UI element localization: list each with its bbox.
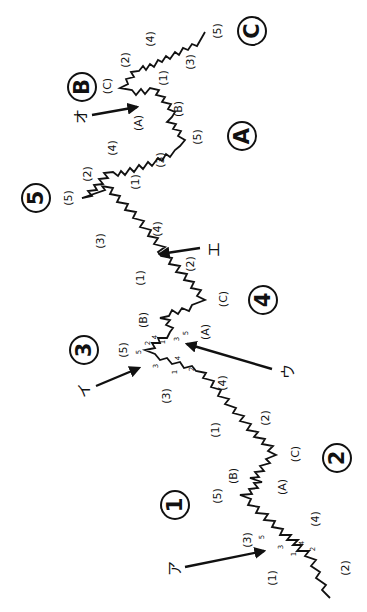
elliott-wave-diagram: 12345ABC (1)(2)(3)(4)(5)(B)(A)(C)(1)(2)(… — [0, 0, 367, 612]
minor-wave-label: 5 — [135, 350, 143, 354]
sub-wave-label: (1) — [157, 70, 170, 86]
sub-wave-label: (5) — [211, 488, 224, 504]
minor-wave-label: 2 — [309, 547, 317, 551]
sub-wave-label: (2) — [81, 166, 94, 182]
minor-wave-label: 4 — [298, 540, 306, 545]
sub-wave-label: (1) — [129, 174, 142, 190]
main-wave-label: 3 — [72, 343, 96, 358]
minor-wave-label: 3 — [152, 364, 160, 368]
sub-wave-label: (5) — [211, 23, 224, 39]
sub-wave-label: (4) — [151, 221, 164, 237]
main-wave-label: 5 — [24, 191, 48, 206]
arrow-o-icon — [92, 107, 137, 115]
minor-wave-label: 4 — [174, 355, 182, 360]
minor-wave-label: 3 — [173, 337, 181, 341]
sub-wave-label: (4) — [216, 375, 229, 391]
callout-label: ウ — [279, 364, 297, 379]
callout-label: エ — [205, 242, 223, 257]
sub-wave-label: (1) — [209, 422, 222, 438]
main-wave-label: B — [70, 79, 94, 95]
sub-wave-label: (A) — [276, 479, 289, 495]
minor-wave-label: 2 — [188, 367, 196, 371]
minor-wave-label: 1 — [290, 552, 298, 556]
sub-wave-label: (A) — [132, 115, 145, 131]
sub-wave-label: (3) — [160, 388, 173, 404]
minor-wave-label: 5 — [258, 535, 266, 539]
arrow-e-icon — [160, 248, 200, 254]
sub-wave-label: (4) — [106, 140, 119, 156]
sub-wave-label: (B) — [227, 468, 240, 484]
minor-wave-label: 1 — [159, 340, 167, 344]
sub-wave-label: (B) — [172, 101, 185, 117]
sub-wave-label: (5) — [117, 342, 130, 358]
sub-wave-label: (3) — [241, 532, 254, 548]
minor-wave-label: 3 — [277, 545, 285, 549]
sub-wave-label: (3) — [94, 233, 107, 249]
minor-wave-label: 2 — [144, 341, 152, 345]
minor-wave-label: 5 — [182, 331, 190, 335]
minor-wave-label: 1 — [171, 370, 179, 374]
arrow-a-icon — [185, 551, 264, 567]
main-wave-label: A — [230, 127, 254, 144]
sub-wave-label: (2) — [119, 52, 132, 68]
sub-wave-label: (C) — [101, 78, 114, 94]
main-wave-label: 2 — [325, 451, 349, 466]
sub-wave-label: (2) — [259, 410, 272, 426]
sub-wave-label: (1) — [266, 570, 279, 586]
callout-label: ア — [166, 561, 184, 576]
sub-wave-label: (2) — [339, 560, 352, 576]
arrow-i-icon — [96, 368, 139, 386]
sub-wave-label: (3) — [154, 152, 167, 168]
callout-label: イ — [75, 383, 93, 398]
main-wave-label: C — [240, 23, 264, 38]
sub-wave-label: (5) — [62, 190, 75, 206]
minor-wave-label: 4 — [151, 334, 159, 339]
arrow-u-icon — [187, 344, 272, 369]
wave-path — [82, 32, 330, 598]
sub-wave-label: (5) — [191, 129, 204, 145]
sub-wave-label: (4) — [309, 511, 322, 527]
sub-wave-label: (A) — [199, 324, 212, 340]
sub-wave-label: (1) — [134, 270, 147, 286]
sub-wave-label: (B) — [137, 312, 150, 328]
sub-wave-label: (C) — [289, 446, 302, 462]
sub-wave-label: (C) — [217, 291, 230, 307]
sub-wave-label: (2) — [184, 256, 197, 272]
callout-label: オ — [72, 109, 90, 124]
main-wave-label: 1 — [163, 498, 187, 513]
sub-wave-label: (3) — [184, 54, 197, 70]
main-wave-label: 4 — [251, 293, 275, 308]
sub-wave-labels: (1)(2)(3)(4)(5)(B)(A)(C)(1)(2)(3)(4)(5)(… — [62, 23, 352, 586]
sub-wave-label: (4) — [144, 31, 157, 47]
